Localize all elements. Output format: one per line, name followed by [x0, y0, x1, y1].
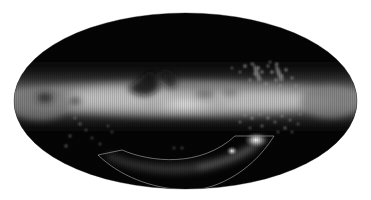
sky-map-svg: [0, 0, 371, 200]
sky-content: [0, 0, 371, 200]
scanline-texture: [0, 0, 371, 200]
all-sky-map: [0, 0, 371, 200]
